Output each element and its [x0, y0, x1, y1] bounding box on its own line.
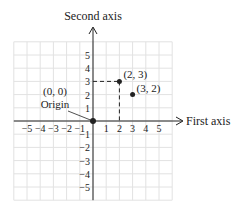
x-tick-label: 4	[143, 123, 148, 134]
x-tick-label: 1	[104, 123, 109, 134]
y-tick-label: −2	[79, 142, 90, 153]
x-tick-label: −2	[61, 123, 72, 134]
coordinate-plane: −5−4−3−2−11234554321−1−2−3−4−5 (2, 3)(3,…	[0, 0, 239, 213]
y-tick-label: 4	[85, 63, 90, 74]
x-tick-label: −3	[48, 123, 59, 134]
y-tick-label: 2	[85, 90, 90, 101]
point-marker	[117, 79, 122, 84]
y-tick-label: 3	[85, 76, 90, 87]
y-tick-label: −4	[79, 169, 90, 180]
point-marker	[130, 92, 135, 97]
y-tick-label: −1	[79, 129, 90, 140]
y-tick-label: 1	[85, 103, 90, 114]
x-tick-label: 5	[157, 123, 162, 134]
x-tick-label: 3	[130, 123, 135, 134]
origin-coords-label: (0, 0)	[43, 85, 67, 98]
x-tick-label: −4	[35, 123, 46, 134]
y-tick-label: −5	[79, 182, 90, 193]
point-label: (2, 3)	[123, 68, 147, 81]
points: (2, 3)(3, 2)	[90, 68, 161, 124]
x-axis-label: First axis	[186, 114, 231, 128]
x-tick-label: 2	[117, 123, 122, 134]
y-tick-label: −3	[79, 156, 90, 167]
x-tick-label: −5	[22, 123, 33, 134]
y-tick-label: 5	[85, 50, 90, 61]
origin-name-label: Origin	[41, 98, 70, 110]
point-label: (3, 2)	[137, 82, 161, 95]
y-axis-label: Second axis	[64, 9, 122, 23]
origin-marker	[90, 118, 96, 124]
